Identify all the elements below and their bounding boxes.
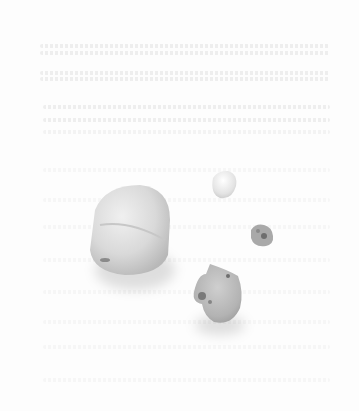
bleed-through-text: [40, 77, 330, 81]
tiny-dark-stone: [248, 222, 276, 250]
small-white-stone: [208, 168, 240, 202]
bleed-through-text: [43, 105, 330, 109]
bleed-through-text: [43, 345, 330, 349]
bleed-through-text: [43, 118, 330, 122]
bleed-through-text: [40, 51, 330, 55]
stone-photograph: [0, 0, 359, 411]
bleed-through-text: [43, 290, 330, 294]
bleed-through-text: [40, 71, 330, 75]
bleed-through-text: [43, 378, 330, 382]
bleed-through-text: [43, 130, 330, 134]
medium-irregular-stone: [188, 262, 248, 330]
bleed-through-text: [43, 320, 330, 324]
bleed-through-text: [43, 168, 330, 172]
bleed-through-text: [40, 44, 330, 48]
large-oval-stone: [85, 180, 175, 280]
